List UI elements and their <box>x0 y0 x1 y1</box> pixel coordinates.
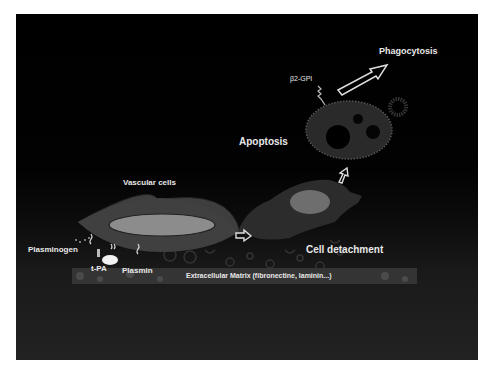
label-extracellular-matrix: Extracellular Matrix (fibronectine, lami… <box>186 272 331 279</box>
vascular-cell <box>78 194 240 252</box>
receptor-icon <box>97 249 100 257</box>
label-plasminogen: Plasminogen <box>28 245 78 254</box>
arrow-to-apoptosis <box>339 168 348 183</box>
label-vascular-cells: Vascular cells <box>123 178 176 187</box>
label-plasmin: Plasmin <box>122 266 153 275</box>
arrow-to-phagocytosis <box>338 65 387 95</box>
label-cell-detachment: Cell detachment <box>306 244 383 255</box>
label-apoptosis: Apoptosis <box>239 136 288 147</box>
label-b2gpi: β2-GPI <box>290 75 312 82</box>
label-phagocytosis: Phagocytosis <box>379 46 438 56</box>
apoptotic-body <box>306 99 406 159</box>
label-tpa: t-PA <box>91 264 107 273</box>
b2gpi-squiggle-icon <box>318 86 325 105</box>
detaching-cell <box>238 180 362 240</box>
